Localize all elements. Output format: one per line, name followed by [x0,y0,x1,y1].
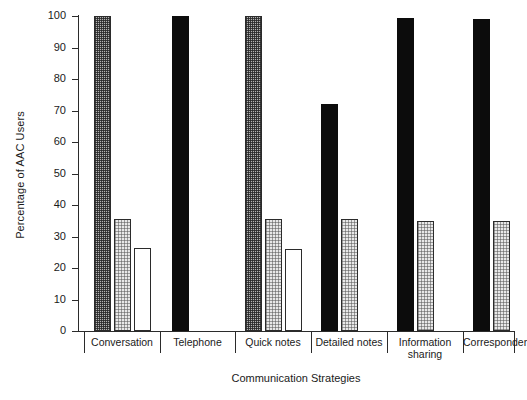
category-label: Quick notes [235,336,311,348]
bar [397,18,414,331]
category-label: Telephone [160,336,235,348]
plot-area [78,16,514,331]
y-axis-tick-label: 0 [26,325,66,336]
y-axis-tick-label: 70 [26,105,66,116]
category-label: Conversation [84,336,160,348]
y-axis-tick-label: 60 [26,136,66,147]
x-axis-title: Communication Strategies [78,372,514,385]
bar [114,219,131,331]
x-axis-line [78,331,514,332]
bar [417,221,434,331]
bar [94,16,111,331]
bar [134,248,151,331]
bar-chart-figure: Percentage of AAC Users 0102030405060708… [0,0,527,400]
bar [285,249,302,331]
bar [245,16,262,331]
y-axis-tick-label: 50 [26,168,66,179]
y-axis-tick-label: 90 [26,42,66,53]
category-label: Information sharing [387,336,463,360]
category-label: Correspondence [463,336,514,348]
y-axis-tick-label: 40 [26,199,66,210]
bar [341,219,358,331]
category-label: Detailed notes [311,336,387,348]
bar [493,221,510,331]
bar [172,16,189,331]
y-axis-tick-label: 20 [26,262,66,273]
bar [321,104,338,331]
y-axis-tick-label: 100 [26,10,66,21]
y-axis-tick-label: 30 [26,231,66,242]
y-axis-tick-label: 10 [26,294,66,305]
y-axis-tick-label: 80 [26,73,66,84]
bar [265,219,282,331]
bar [473,19,490,331]
